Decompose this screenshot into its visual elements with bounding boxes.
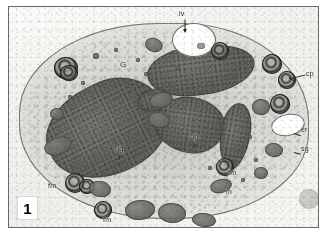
secretory-granule: [241, 178, 245, 182]
arrowhead-lv: [183, 29, 187, 33]
secretory-granule: [68, 95, 72, 99]
secretory-granule: [136, 58, 140, 62]
mitochondrion: [50, 108, 64, 120]
secretory-granule: [128, 84, 132, 88]
myelin-figure: [60, 65, 78, 81]
label-sg: sg: [301, 145, 309, 152]
label-np: np: [190, 133, 199, 141]
figure-page: lv G cp er sg np ng fm m fm fm 1: [0, 0, 327, 240]
mitochondrion: [252, 99, 270, 115]
myelin-figure: [211, 42, 229, 60]
micrograph-plate: lv G cp er sg np ng fm m fm fm 1: [8, 6, 319, 228]
figure-number-text: 1: [23, 200, 31, 217]
figure-number-badge: 1: [17, 196, 38, 220]
mitochondrion: [299, 189, 319, 209]
label-fm-left: fm: [48, 182, 56, 189]
label-golgi: G: [120, 61, 126, 69]
myelin-figure: [270, 94, 290, 114]
leader-line-np: [194, 144, 195, 148]
label-lv: lv: [179, 10, 184, 17]
label-ng: ng: [115, 145, 124, 153]
myelin-figure: [262, 54, 282, 74]
lucent-vacuole-lv: [172, 23, 216, 57]
label-m: m: [226, 188, 232, 195]
secretory-granule: [144, 72, 148, 76]
label-fm-right: fm: [228, 169, 236, 176]
label-er: er: [301, 126, 308, 133]
secretory-granule: [248, 135, 252, 139]
secretory-granule: [81, 81, 85, 85]
secretory-granule: [208, 166, 212, 170]
vacuole-inclusion: [197, 43, 205, 49]
secretory-granule: [254, 158, 258, 162]
label-cp: cp: [306, 70, 314, 77]
secretory-granule: [176, 66, 180, 70]
label-fm-bottom: fm: [103, 216, 111, 223]
secretory-granule: [114, 48, 118, 52]
mitochondrion: [254, 167, 268, 179]
leader-line-ng: [119, 156, 120, 160]
secretory-granule: [93, 53, 99, 59]
